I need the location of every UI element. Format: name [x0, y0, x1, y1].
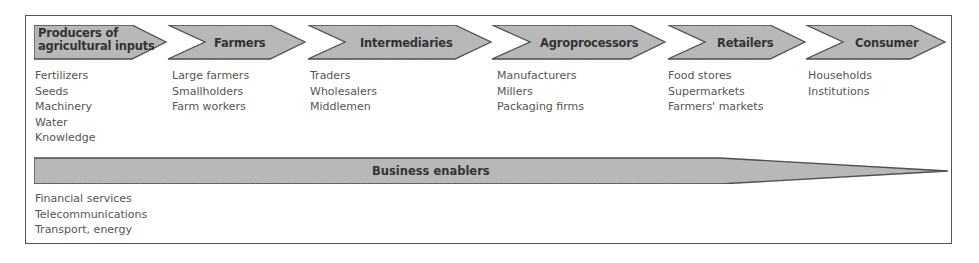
stage-label-line: agricultural inputs	[38, 40, 155, 53]
list-item: Institutions	[808, 84, 872, 100]
stage-label-farmers: Farmers	[214, 36, 266, 50]
list-item: Machinery	[35, 99, 95, 115]
stage-label-retailers: Retailers	[717, 36, 773, 50]
stage-items-intermediaries: Traders Wholesalers Middlemen	[310, 68, 377, 115]
list-item: Financial services	[35, 191, 147, 207]
list-item: Manufacturers	[497, 68, 584, 84]
list-item: Knowledge	[35, 130, 95, 146]
stage-label-intermediaries: Intermediaries	[360, 36, 453, 50]
list-item: Wholesalers	[310, 84, 377, 100]
stage-items-agroprocessors: Manufacturers Millers Packaging firms	[497, 68, 584, 115]
list-item: Telecommunications	[35, 207, 147, 223]
stage-items-producers: Fertilizers Seeds Machinery Water Knowle…	[35, 68, 95, 146]
list-item: Middlemen	[310, 99, 377, 115]
list-item: Traders	[310, 68, 377, 84]
stage-items-farmers: Large farmers Smallholders Farm workers	[172, 68, 249, 115]
enablers-label: Business enablers	[372, 164, 490, 178]
list-item: Supermarkets	[668, 84, 763, 100]
list-item: Millers	[497, 84, 584, 100]
list-item: Fertilizers	[35, 68, 95, 84]
list-item: Packaging firms	[497, 99, 584, 115]
stage-items-retailers: Food stores Supermarkets Farmers' market…	[668, 68, 763, 115]
stage-items-consumer: Households Institutions	[808, 68, 872, 99]
list-item: Smallholders	[172, 84, 249, 100]
stage-label-producers: Producers of agricultural inputs	[38, 27, 155, 53]
list-item: Transport, energy	[35, 222, 147, 238]
list-item: Seeds	[35, 84, 95, 100]
list-item: Food stores	[668, 68, 763, 84]
stage-label-consumer: Consumer	[855, 36, 918, 50]
list-item: Households	[808, 68, 872, 84]
enablers-arrow	[34, 158, 948, 184]
stage-label-agroprocessors: Agroprocessors	[540, 36, 638, 50]
list-item: Farmers' markets	[668, 99, 763, 115]
list-item: Large farmers	[172, 68, 249, 84]
enablers-items: Financial services Telecommunications Tr…	[35, 191, 147, 238]
list-item: Water	[35, 115, 95, 131]
list-item: Farm workers	[172, 99, 249, 115]
